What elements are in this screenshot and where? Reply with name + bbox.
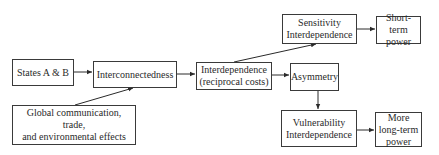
node-interconnectedness: Interconnectedness bbox=[93, 61, 177, 88]
node-asymmetry: Asymmetry bbox=[290, 63, 339, 91]
node-vulnerability-line2: Interdependence bbox=[286, 129, 352, 141]
node-long-term-line3: power bbox=[386, 136, 411, 148]
node-sensitivity-line1: Sensitivity bbox=[298, 17, 341, 29]
arrow-global-to-interconnectedness bbox=[75, 88, 133, 105]
node-vulnerability-interdependence: Vulnerability Interdependence bbox=[281, 110, 357, 147]
node-short-term-power: Short-term power bbox=[376, 16, 421, 44]
node-interdependence-line2: (reciprocal costs) bbox=[199, 76, 268, 88]
node-states: States A & B bbox=[12, 59, 74, 86]
node-long-term-line2: long-term bbox=[379, 124, 418, 136]
node-sensitivity-line2: Interdependence bbox=[286, 29, 352, 41]
node-global-line1: Global communication, trade, bbox=[15, 107, 133, 131]
figure-caption-cutoff bbox=[12, 150, 72, 155]
arrow-interdependence-to-sensitivity bbox=[234, 44, 316, 62]
node-long-term-power: More long-term power bbox=[375, 112, 422, 147]
node-asymmetry-label: Asymmetry bbox=[291, 71, 338, 83]
node-vulnerability-line1: Vulnerability bbox=[293, 117, 346, 129]
node-interdependence: Interdependence (reciprocal costs) bbox=[196, 62, 272, 90]
node-short-term-line1: Short-term bbox=[379, 12, 418, 36]
node-sensitivity-interdependence: Sensitivity Interdependence bbox=[282, 14, 357, 44]
node-interconnectedness-label: Interconnectedness bbox=[97, 69, 174, 81]
node-global-effects: Global communication, trade, and environ… bbox=[12, 105, 136, 145]
node-long-term-line1: More bbox=[388, 112, 410, 124]
node-states-label: States A & B bbox=[17, 67, 69, 79]
node-short-term-line2: power bbox=[386, 36, 411, 48]
node-global-line2: and environmental effects bbox=[22, 131, 126, 143]
node-interdependence-line1: Interdependence bbox=[201, 64, 267, 76]
